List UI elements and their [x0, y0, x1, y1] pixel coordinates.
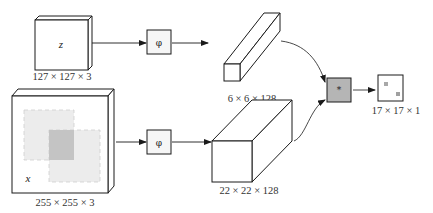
score-marker-1 [384, 82, 388, 86]
variable-z: z [58, 38, 64, 50]
embedding-phi-bottom: φ [147, 130, 171, 154]
correlation-symbol: * [337, 85, 342, 95]
arrow-feature-top-to-correlation [281, 41, 325, 82]
embedding-phi-top: φ [147, 30, 171, 54]
output-size-label: 17 × 17 × 1 [372, 105, 421, 116]
search-size-label: 255 × 255 × 3 [35, 197, 94, 208]
phi-symbol-top: φ [156, 38, 162, 48]
feature-map-bottom [212, 100, 292, 182]
feature-bottom-size-label: 22 × 22 × 128 [219, 185, 278, 196]
score-marker-2 [396, 92, 400, 96]
score-map-output [378, 75, 403, 101]
cross-correlation-box: * [327, 78, 351, 102]
phi-symbol-bottom: φ [156, 138, 162, 148]
variable-x: x [25, 172, 31, 184]
arrow-feature-bottom-to-correlation [294, 100, 325, 141]
exemplar-size-label: 127 × 127 × 3 [32, 71, 91, 82]
search-image-x: x [12, 89, 114, 193]
exemplar-image-z: z [35, 16, 92, 70]
feature-map-top [224, 13, 280, 81]
siamese-diagram: z 127 × 127 × 3 φ 6 × 6 × 128 x 255 × 25… [0, 0, 433, 213]
window-overlap [49, 130, 74, 160]
